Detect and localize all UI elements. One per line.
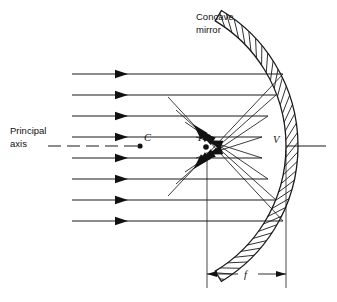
mirror-hatch-line-4 (248, 25, 252, 58)
mirror-hatch-line-27 (246, 231, 278, 240)
point-marker-f (203, 144, 209, 150)
mirror-hatch-line-29 (234, 247, 267, 252)
incident-ray-arrowhead-4 (115, 154, 128, 162)
incident-ray-arrowhead-3 (115, 133, 128, 141)
incident-rays-group (72, 70, 283, 225)
incident-ray-arrowhead-2 (115, 112, 128, 120)
mirror-hatch-line-2 (233, 13, 241, 45)
label-center-of-curvature: C (144, 132, 152, 143)
label-vertex: V (273, 134, 281, 145)
mirror-hatch-line-31 (220, 262, 253, 263)
dim-arrowhead-left (207, 271, 217, 277)
incident-ray-arrowhead-5 (115, 175, 128, 183)
reflected-ray-1 (176, 95, 276, 184)
incident-ray-arrowhead-6 (115, 196, 128, 204)
mirror-label-line2: mirror (196, 24, 221, 35)
incident-ray-arrowhead-7 (115, 217, 128, 225)
dim-arrowhead-right (276, 271, 286, 277)
incident-ray-arrowhead-1 (115, 91, 128, 99)
axis-label-line1: Principal (10, 125, 46, 136)
reflected-ray-2 (185, 116, 268, 172)
point-marker-c (137, 143, 142, 148)
mirror-hatch-line-5 (255, 32, 257, 65)
ray-diagram-canvas: Concave mirror Principal axis C F V f (0, 0, 337, 302)
mirror-hatch-line-30 (227, 255, 260, 258)
mirror-hatch-line-26 (252, 223, 283, 234)
mirror-hatch-line-28 (240, 239, 272, 246)
mirror-hatch-line-3 (241, 19, 247, 52)
mirror-label-line1: Concave (196, 11, 234, 22)
incident-ray-arrowhead-0 (115, 70, 128, 78)
reflected-ray-6 (176, 110, 276, 200)
axis-label-line2: axis (10, 138, 27, 149)
reflected-rays-group (168, 74, 283, 221)
concave-mirror-figure: Concave mirror Principal axis C F V f (0, 0, 337, 302)
label-focal-length: f (244, 269, 249, 280)
label-focal-point: F (197, 132, 205, 143)
